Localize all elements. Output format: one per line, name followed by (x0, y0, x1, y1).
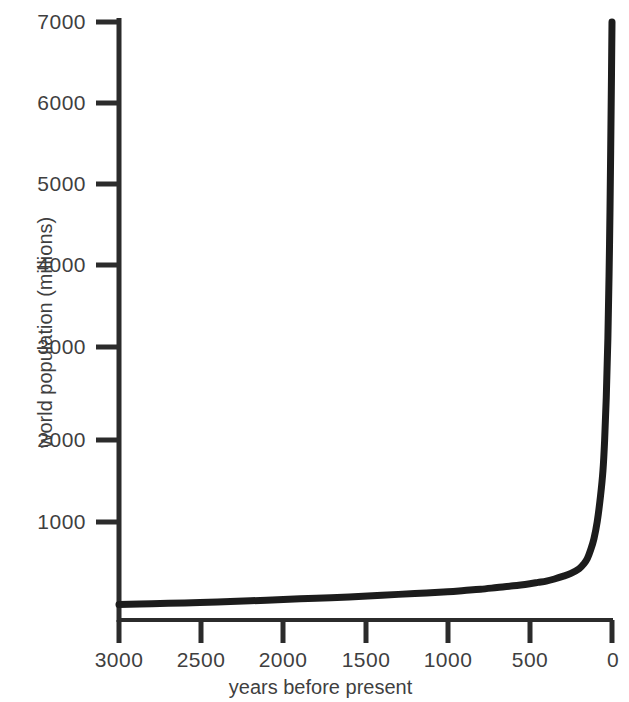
y-tick-label-7000: 7000 (2, 10, 86, 34)
y-tick-label-6000: 6000 (2, 91, 86, 115)
x-axis-title: years before present (6, 676, 629, 699)
x-tick-label-0: 0 (607, 648, 619, 672)
x-tick-label-3000: 3000 (95, 648, 144, 672)
x-axis-ticks (119, 620, 612, 643)
population-curve (119, 22, 612, 605)
x-tick-label-2500: 2500 (177, 648, 226, 672)
y-axis-title: world population (millions) (34, 217, 57, 448)
population-growth-chart: 7000 6000 5000 4000 3000 2000 1000 3000 … (0, 0, 629, 702)
y-axis-ticks (96, 22, 119, 522)
chart-plot-area (0, 0, 629, 702)
x-tick-label-2000: 2000 (259, 648, 308, 672)
y-tick-label-1000: 1000 (2, 510, 86, 534)
y-tick-label-5000: 5000 (2, 172, 86, 196)
x-tick-label-1500: 1500 (342, 648, 391, 672)
x-tick-label-1000: 1000 (424, 648, 473, 672)
x-tick-label-500: 500 (512, 648, 549, 672)
